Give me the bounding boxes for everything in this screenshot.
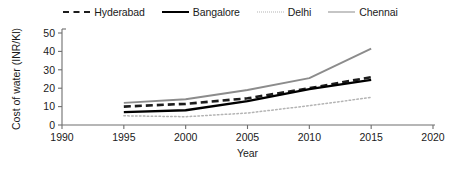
x-tick-label: 2020 [421,131,445,143]
x-tick-label: 2000 [174,131,198,143]
legend-swatch-delhi-dotted-icon [257,7,284,17]
legend-item-hyderabad: Hyderabad [63,5,144,19]
series-line-bangalore [124,80,371,112]
x-tick-label: 2015 [359,131,383,143]
legend-label-bangalore: Bangalore [193,7,240,18]
series-line-chennai [124,49,371,103]
y-axis-title: Cost of water (INR/Kl) [10,28,22,130]
x-tick-label: 2010 [298,131,322,143]
x-axis: 1990199520002005201020152020 [50,125,445,143]
y-tick-label: 30 [43,64,55,76]
x-tick-label: 1990 [50,131,74,143]
legend-label-hyderabad: Hyderabad [94,7,144,18]
legend-item-delhi: Delhi [257,5,311,19]
legend-label-chennai: Chennai [359,7,397,18]
legend-swatch-bangalore-solid-icon [162,7,189,17]
data-series-group [124,49,371,117]
line-chart-figure: Hyderabad Bangalore Delhi Chennai 010203… [0,0,461,173]
y-tick-label: 40 [43,45,55,57]
y-tick-label: 0 [49,119,55,131]
legend-swatch-hyderabad-dashed-icon [63,7,90,17]
y-tick-label: 50 [43,27,55,39]
chart-legend: Hyderabad Bangalore Delhi Chennai [0,4,461,20]
legend-label-delhi: Delhi [288,7,311,18]
chart-svg: 01020304050 1990199520002005201020152020… [0,20,461,173]
x-tick-label: 2005 [236,131,260,143]
y-tick-label: 10 [43,100,55,112]
legend-swatch-chennai-solid-icon [328,7,355,17]
x-tick-label: 1995 [112,131,136,143]
legend-item-chennai: Chennai [328,5,397,19]
chart-plot-area: 01020304050 1990199520002005201020152020… [0,20,461,173]
y-axis: 01020304050 [43,27,66,131]
legend-item-bangalore: Bangalore [162,5,240,19]
y-tick-label: 20 [43,82,55,94]
x-axis-title: Year [237,147,259,159]
